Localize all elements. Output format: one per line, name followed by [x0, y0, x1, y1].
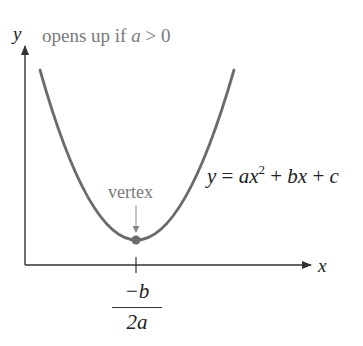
eq-a: a — [239, 164, 250, 188]
fraction-bar — [112, 307, 162, 308]
vertex-label: vertex — [108, 183, 153, 201]
vertex-point — [132, 236, 141, 245]
eq-b: b — [287, 164, 298, 188]
caption-variable: a — [131, 25, 141, 46]
fraction-denominator: 2a — [110, 310, 164, 335]
parabola-curve — [40, 70, 234, 240]
vertex-x-fraction: −b 2a — [110, 279, 164, 335]
caption-prefix: opens up if — [42, 25, 131, 46]
eq-equals: = — [216, 164, 238, 188]
x-axis-label: x — [318, 256, 326, 275]
eq-plus: + — [265, 164, 287, 188]
eq-x: x — [249, 164, 258, 188]
eq-y: y — [207, 164, 216, 188]
y-axis-label: y — [13, 24, 21, 43]
opens-up-caption: opens up if a > 0 — [42, 26, 170, 45]
eq-plus: + — [307, 164, 329, 188]
caption-suffix: > 0 — [141, 25, 171, 46]
eq-c: c — [330, 164, 339, 188]
eq-x: x — [298, 164, 307, 188]
fraction-numerator: −b — [110, 279, 164, 304]
parabola-equation: y = ax2 + bx + c — [207, 163, 339, 187]
